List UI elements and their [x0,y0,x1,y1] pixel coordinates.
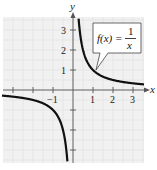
function-label-numerator: 1 [128,25,134,37]
x-tick-label: 3 [130,94,135,105]
function-graph: −1123123 f(x) = 1 x x y [0,0,157,170]
x-tick-label: 2 [110,94,115,105]
function-label-lhs: f(x) = [97,32,122,45]
y-tick-label: 3 [61,25,66,36]
x-tick-label: −1 [47,94,58,105]
y-axis-arrow-icon [71,12,76,18]
x-tick-label: 1 [90,94,95,105]
y-tick-label: 1 [61,65,66,76]
function-label-denominator: x [126,39,132,51]
y-axis-label: y [69,0,75,12]
y-tick-label: 2 [61,45,66,56]
x-axis-label: x [149,83,155,95]
